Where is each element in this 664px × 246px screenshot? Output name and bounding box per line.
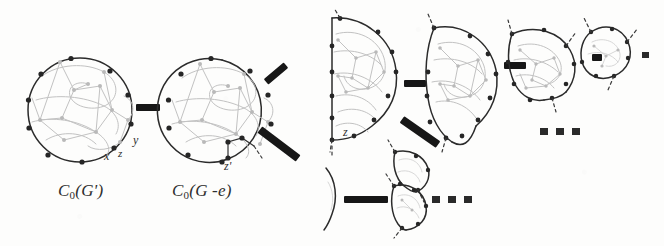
disk-3-inner-graph <box>334 32 385 132</box>
arrow-1-horizontal <box>136 104 160 111</box>
label-z-first: z <box>118 148 122 159</box>
sphere-2-cut-notch <box>225 135 262 160</box>
sphere-2 <box>157 56 273 165</box>
disk-4-inner-vertices <box>438 46 488 102</box>
label-z-prime: z' <box>224 160 231 172</box>
ellipsis-top-row-marks <box>540 128 580 135</box>
arrow-8-horizontal-long <box>344 196 388 203</box>
sphere-2-inner-graph <box>172 64 273 158</box>
ellipsis-top-right-marks <box>642 52 649 58</box>
ellipsis-bottom-right-marks <box>432 196 472 203</box>
disk-4-inner-graph <box>432 42 486 118</box>
disk-8 <box>324 168 335 230</box>
caption-1-body: G <box>81 181 93 200</box>
disk-9 <box>386 174 428 238</box>
caption-2-close: ) <box>226 181 232 200</box>
arrow-3-diagonal-down <box>257 126 300 161</box>
disk-3 <box>330 8 399 152</box>
label-x: x <box>104 150 109 162</box>
caption-2-body: G -e <box>195 181 226 200</box>
disk-9-inner-graph <box>397 195 420 218</box>
caption-2-head: C <box>172 181 184 200</box>
sphere-2-boundary-vertices <box>166 56 274 165</box>
disk-7-inner-graph <box>398 159 422 182</box>
label-z-third: z <box>343 126 348 138</box>
sphere-1-inner-graph <box>32 62 133 156</box>
caption-1-head: C <box>58 181 70 200</box>
disk-4 <box>425 14 499 152</box>
arrow-7-horizontal <box>592 54 602 61</box>
caption-c0-g-prime: C0(G') <box>58 182 103 201</box>
disk-7 <box>388 140 430 202</box>
caption-1-close: ) <box>97 181 103 200</box>
caption-c0-g-minus-e: C0(G -e) <box>172 182 232 201</box>
figure-canvas: .out{fill:none;stroke:#2b2b2b;stroke-wid… <box>0 0 664 246</box>
figure-root: .out{fill:none;stroke:#2b2b2b;stroke-wid… <box>0 0 664 246</box>
disk-8-inner-graph <box>328 182 333 210</box>
label-y: y <box>133 134 138 146</box>
disk-6-inner-graph <box>588 40 620 67</box>
arrow-4-horizontal <box>404 80 426 87</box>
disk-6 <box>580 18 638 90</box>
arrow-2-diagonal-up <box>264 62 288 84</box>
